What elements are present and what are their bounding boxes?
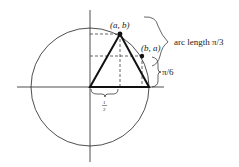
label-point-ab: (a, b) bbox=[110, 20, 130, 30]
point-ab bbox=[118, 32, 123, 37]
label-half-denominator: 2 bbox=[103, 107, 106, 112]
half-brace bbox=[91, 89, 118, 97]
unit-circle-diagram: (a, b) (b, a) arc length π/3 π/6 1 2 bbox=[0, 0, 239, 167]
label-arc-length: arc length π/3 bbox=[174, 37, 224, 47]
label-angle: π/6 bbox=[162, 67, 174, 77]
label-half-numerator: 1 bbox=[103, 100, 106, 105]
point-ba bbox=[140, 54, 144, 58]
equilateral-triangle bbox=[90, 34, 149, 87]
diagram-canvas: (a, b) (b, a) arc length π/3 π/6 1 2 bbox=[0, 0, 239, 167]
angle-brace bbox=[152, 57, 161, 87]
label-point-ba: (b, a) bbox=[141, 43, 161, 53]
